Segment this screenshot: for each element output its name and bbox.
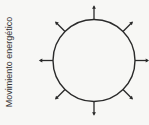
circle [53, 20, 135, 102]
arrow-up-right-icon [123, 21, 133, 31]
arrow-down-left-icon [55, 89, 65, 99]
arrow-down-icon [92, 102, 96, 116]
radial-arrows [39, 5, 149, 115]
arrow-right-icon [135, 59, 149, 63]
arrow-up-left-icon [55, 21, 65, 31]
arrow-up-icon [92, 5, 96, 19]
arrow-left-icon [39, 59, 53, 63]
energy-movement-diagram [0, 0, 149, 125]
arrow-down-right-icon [123, 89, 133, 99]
